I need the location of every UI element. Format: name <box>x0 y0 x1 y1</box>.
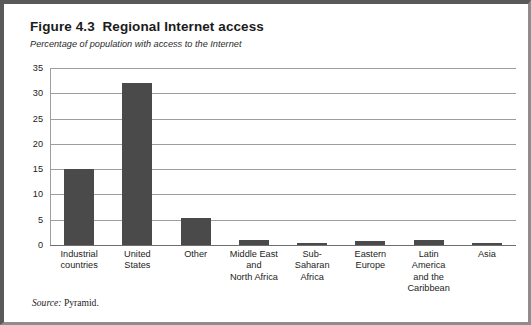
chart-subtitle: Percentage of population with access to … <box>30 39 241 49</box>
x-axis-category-label-line: United <box>108 249 166 260</box>
bar-slot <box>225 68 283 245</box>
x-axis-category-label: EasternEurope <box>341 249 399 272</box>
bar[interactable] <box>64 169 94 245</box>
x-axis-category-label: Asia <box>458 249 516 260</box>
bar-slot <box>108 68 166 245</box>
x-axis-category-label-line: and <box>225 260 283 271</box>
x-axis-category-label-line: America <box>400 260 458 271</box>
bar-slot <box>50 68 108 245</box>
x-axis-category-label-line: Sub- <box>283 249 341 260</box>
figure-frame: Figure 4.3 Regional Internet access Perc… <box>0 0 531 325</box>
x-axis-category-label-line: States <box>108 260 166 271</box>
bar[interactable] <box>472 243 502 245</box>
y-axis-tick-label: 30 <box>33 88 43 98</box>
gridline: 0 <box>50 245 516 246</box>
x-axis-category-label: Other <box>167 249 225 260</box>
x-axis-category-label: Industrialcountries <box>50 249 108 272</box>
x-axis-category-label: Sub-SaharanAfrica <box>283 249 341 283</box>
x-axis-category-label-line: Latin <box>400 249 458 260</box>
y-axis-tick-label: 10 <box>33 189 43 199</box>
x-axis-category-label: UnitedStates <box>108 249 166 272</box>
bar[interactable] <box>239 240 269 245</box>
x-axis-category-label: Middle EastandNorth Africa <box>225 249 283 283</box>
bar[interactable] <box>355 241 385 245</box>
source-value: Pyramid. <box>61 297 98 308</box>
bar[interactable] <box>414 240 444 245</box>
x-axis-category-label-line: Saharan <box>283 260 341 271</box>
bars-layer <box>50 68 516 245</box>
y-axis-tick-label: 20 <box>33 139 43 149</box>
x-axis-category-label-line: Other <box>167 249 225 260</box>
bar-slot <box>400 68 458 245</box>
plot-area: 05101520253035 <box>50 68 516 245</box>
bar[interactable] <box>297 243 327 245</box>
bar-slot <box>283 68 341 245</box>
x-axis-category-label-line: North Africa <box>225 272 283 283</box>
x-axis-category-label-line: Africa <box>283 272 341 283</box>
bar-slot <box>167 68 225 245</box>
source-note: Source: Pyramid. <box>32 297 99 308</box>
x-axis-category-label-line: Middle East <box>225 249 283 260</box>
figure-inner: Figure 4.3 Regional Internet access Perc… <box>4 4 528 322</box>
x-axis-category-label-line: Caribbean <box>400 283 458 294</box>
x-axis-category-label-line: countries <box>50 260 108 271</box>
x-axis-category-label-line: Europe <box>341 260 399 271</box>
y-axis-tick-label: 0 <box>38 240 43 250</box>
bar[interactable] <box>122 83 152 245</box>
source-label: Source: <box>32 297 61 308</box>
y-axis-tick-label: 15 <box>33 164 43 174</box>
x-axis-category-label-line: Eastern <box>341 249 399 260</box>
bar[interactable] <box>181 218 211 245</box>
y-axis-tick-label: 25 <box>33 114 43 124</box>
x-axis-category-label-line: Asia <box>458 249 516 260</box>
x-axis-category-label-line: and the <box>400 272 458 283</box>
x-axis-category-label-line: Industrial <box>50 249 108 260</box>
y-axis-tick-label: 35 <box>33 63 43 73</box>
bar-slot <box>341 68 399 245</box>
x-axis-category-label: LatinAmericaand theCaribbean <box>400 249 458 295</box>
chart-title: Figure 4.3 Regional Internet access <box>30 19 264 34</box>
x-axis-labels: IndustrialcountriesUnitedStatesOtherMidd… <box>50 249 516 301</box>
bar-slot <box>458 68 516 245</box>
y-axis-tick-label: 5 <box>38 215 43 225</box>
